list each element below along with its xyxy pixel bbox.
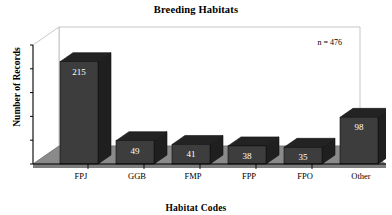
x-tick-label: Other bbox=[351, 171, 371, 181]
x-axis-tick-labels: FPJGGBFMPFPPFPOOther bbox=[75, 171, 371, 181]
y-axis: 250 200 150 100 50 0 bbox=[30, 41, 33, 169]
bar-fpo: 35 bbox=[284, 138, 335, 164]
chart-title: Breeding Habitats bbox=[0, 4, 392, 15]
x-tick-label: FMP bbox=[184, 171, 201, 181]
bar-fmp: 41 bbox=[172, 135, 223, 164]
bar-value-label: 49 bbox=[131, 146, 141, 156]
bar-value-label: 35 bbox=[299, 152, 309, 162]
bar-value-label: 41 bbox=[187, 149, 196, 159]
bar-value-label: 38 bbox=[243, 151, 253, 161]
bar-side bbox=[98, 53, 111, 164]
chart-svg: 250 200 150 100 50 0 2154941383598 bbox=[30, 18, 386, 190]
x-tick-label: FPJ bbox=[75, 171, 88, 181]
chart-figure: Breeding Habitats Number of Records Habi… bbox=[0, 0, 392, 215]
left-wall bbox=[33, 27, 59, 164]
x-tick-label: FPP bbox=[242, 171, 256, 181]
bar-front bbox=[60, 62, 98, 164]
x-tick-label: GGB bbox=[128, 171, 146, 181]
bar-ggb: 49 bbox=[116, 132, 167, 164]
bar-value-label: 215 bbox=[72, 67, 86, 77]
bar-other: 98 bbox=[340, 108, 386, 164]
x-tick-label: FPO bbox=[297, 171, 313, 181]
floor-front-edge bbox=[33, 164, 386, 168]
bar-value-label: 98 bbox=[355, 122, 365, 132]
bar-fpj: 215 bbox=[60, 53, 111, 164]
sample-size-annotation: n = 476 bbox=[317, 38, 342, 47]
bar-fpp: 38 bbox=[228, 137, 279, 164]
y-axis-title: Number of Records bbox=[12, 27, 22, 147]
plot-area: 250 200 150 100 50 0 2154941383598 bbox=[30, 18, 386, 190]
x-axis-title: Habitat Codes bbox=[0, 203, 392, 213]
